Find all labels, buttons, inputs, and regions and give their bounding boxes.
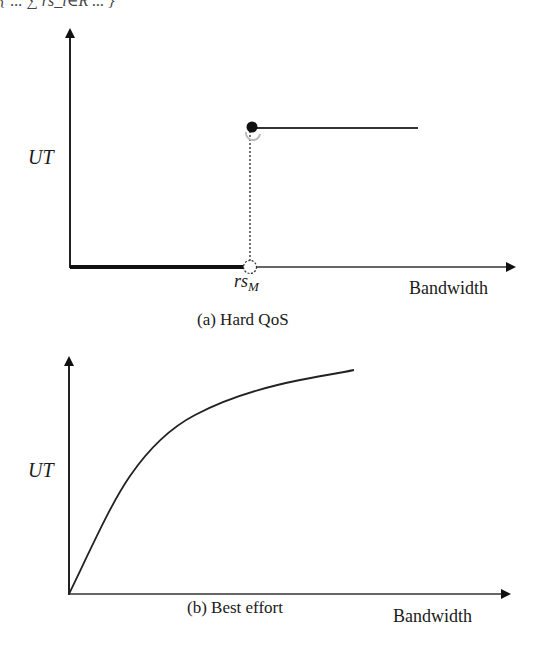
- chart-a-threshold-main: rs: [234, 271, 248, 291]
- chart-b-utility-curve-path: [69, 368, 355, 594]
- chart-a-x-label: Bandwidth: [409, 278, 488, 299]
- chart-a-threshold-sub: M: [248, 279, 259, 294]
- chart-b-best-effort: [69, 264, 509, 595]
- chart-a-caption: (a) Hard QoS: [197, 310, 289, 330]
- chart-a-hard-qos: [70, 30, 514, 274]
- chart-b-curve: [69, 370, 354, 594]
- chart-a-threshold-label: rsM: [234, 271, 259, 295]
- chart-b-caption: (b) Best effort: [187, 598, 283, 618]
- chart-a-y-label: UT: [28, 146, 54, 169]
- chart-a-filled-point-icon: [247, 122, 258, 133]
- chart-b-y-label: UT: [28, 459, 54, 482]
- chart-b-x-label: Bandwidth: [393, 606, 472, 627]
